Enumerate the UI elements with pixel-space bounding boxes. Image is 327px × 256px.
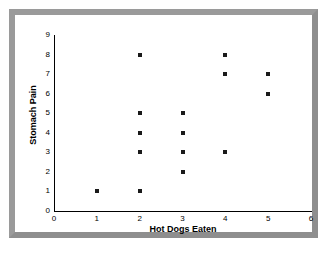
y-tick-label: 1 [37, 186, 50, 196]
y-tick-label: 5 [37, 108, 50, 118]
data-point [181, 170, 185, 174]
y-tick-label: 7 [37, 69, 50, 79]
data-point [138, 111, 142, 115]
data-point [181, 111, 185, 115]
data-point-layer [54, 35, 311, 211]
figure-frame: 0123456 0123456789 Hot Dogs Eaten Stomac… [9, 9, 318, 238]
x-axis-line [54, 211, 312, 212]
y-tick-label: 3 [37, 147, 50, 157]
data-point [266, 72, 270, 76]
data-point [223, 150, 227, 154]
y-tick-label: 8 [37, 50, 50, 60]
y-axis-title: Stomach Pain [28, 65, 38, 165]
data-point [138, 150, 142, 154]
data-point [266, 92, 270, 96]
figure-canvas: 0123456 0123456789 Hot Dogs Eaten Stomac… [0, 0, 327, 256]
x-tick-label: 5 [258, 214, 278, 224]
data-point [223, 53, 227, 57]
x-axis-title: Hot Dogs Eaten [54, 224, 312, 234]
x-tick-label: 1 [87, 214, 107, 224]
y-tick-label: 2 [37, 167, 50, 177]
plot-area: 0123456 0123456789 Hot Dogs Eaten Stomac… [15, 15, 324, 244]
x-tick-label: 3 [173, 214, 193, 224]
x-tick-label: 2 [130, 214, 150, 224]
data-point [138, 53, 142, 57]
data-point [181, 131, 185, 135]
data-point [138, 131, 142, 135]
x-tick-label: 4 [215, 214, 235, 224]
data-point [181, 150, 185, 154]
data-point [138, 189, 142, 193]
data-point [95, 189, 99, 193]
y-tick-label: 4 [37, 128, 50, 138]
y-tick-label: 0 [37, 206, 50, 216]
data-point [223, 72, 227, 76]
x-tick-label: 6 [301, 214, 321, 224]
y-tick-label: 9 [37, 30, 50, 40]
y-tick-label: 6 [37, 89, 50, 99]
